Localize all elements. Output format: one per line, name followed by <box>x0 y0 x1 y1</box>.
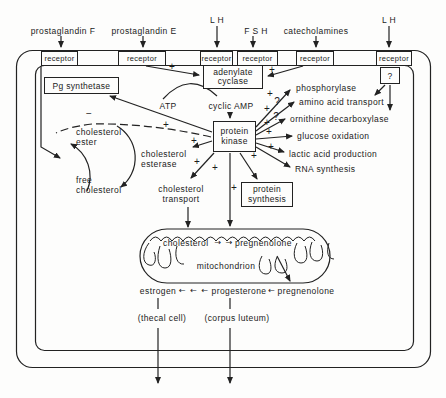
label-lh-left: L H <box>205 15 229 25</box>
plus-cholesterol-transport: + <box>191 156 203 167</box>
plus-protein-synthesis-arrow: + <box>209 162 221 173</box>
plus-pge-cyclase: + <box>166 61 178 72</box>
label-thecal-cell: (thecal cell) <box>132 313 192 323</box>
label-corpus-luteum: (corpus luteum) <box>199 313 275 323</box>
luteal-cell-signaling-diagram: prostaglandin F prostaglandin E L H F S … <box>0 0 446 398</box>
pg-synthetase-box: Pg synthetase <box>44 77 119 94</box>
receptor-lh-left: receptor <box>200 51 233 66</box>
plus-esterase: + <box>188 135 200 146</box>
label-pregnenolone-out: pregnenolone <box>276 286 336 296</box>
label-mito-cholesterol: cholesterol <box>163 238 209 248</box>
label-rna-synthesis: RNA synthesis <box>295 164 355 174</box>
label-amino-acid-transport: amino acid transport <box>299 97 384 107</box>
label-fsh: F S H <box>242 26 270 36</box>
mito-step-arrows: → → <box>214 238 234 248</box>
estrogen-step-arrows: ← ← ← <box>178 286 210 296</box>
protein-kinase-box: protein kinase <box>213 121 256 152</box>
minus-cholesterol-ester: − <box>83 108 95 119</box>
label-mito-pregnenolone: pregnenolone <box>235 238 292 248</box>
unknown-mediator-box: ? <box>380 67 400 84</box>
label-free-cholesterol: free cholesterol <box>76 176 122 195</box>
mitochondrion-cristae-mid <box>259 256 287 274</box>
label-phosphorylase: phosphorylase <box>296 83 357 93</box>
arrow-unknown-to-amino-acid-transport <box>375 85 385 95</box>
label-progesterone: progesterone <box>209 286 269 296</box>
label-mitochondrion: mitochondrion <box>190 261 262 271</box>
receptor-fsh: receptor <box>237 51 278 66</box>
label-ornithine-decarboxylase: ornithine decarboxylase <box>290 114 389 124</box>
receptor-pgf: receptor <box>41 51 78 66</box>
label-prostaglandin-f: prostaglandin F <box>27 26 99 36</box>
label-cholesterol-transport: cholesterol transport <box>156 185 206 204</box>
plus-lactic-acid: + <box>265 141 277 152</box>
label-estrogen: estrogen <box>138 286 178 296</box>
adenylate-cyclase-box: adenylate cyclase <box>203 65 263 89</box>
label-cyclic-amp: cyclic AMP <box>205 101 257 111</box>
arrow-pregnenolone-out <box>277 256 290 281</box>
mitochondrion-cristae-right <box>294 242 334 263</box>
label-prostaglandin-e: prostaglandin E <box>108 26 180 36</box>
plus-dashed-line: + <box>160 119 172 130</box>
label-glucose-oxidation: glucose oxidation <box>297 131 369 141</box>
label-cholesterol-ester: cholesterol ester <box>76 128 122 147</box>
receptor-pge: receptor <box>118 51 166 66</box>
protein-synthesis-box: protein synthesis <box>241 182 293 207</box>
label-catecholamines: catecholamines <box>281 26 351 36</box>
plus-glucose-oxidation: + <box>263 126 275 137</box>
label-atp: ATP <box>155 101 181 111</box>
label-lactic-acid-production: lactic acid production <box>289 149 377 159</box>
receptor-catecholamines: receptor <box>296 51 334 66</box>
label-lh-right: L H <box>377 15 401 25</box>
plus-protein-synthesis-box: + <box>228 182 240 193</box>
receptor-lh-right: receptor <box>376 51 412 66</box>
label-cholesterol-esterase: cholesterol esterase <box>141 150 187 169</box>
